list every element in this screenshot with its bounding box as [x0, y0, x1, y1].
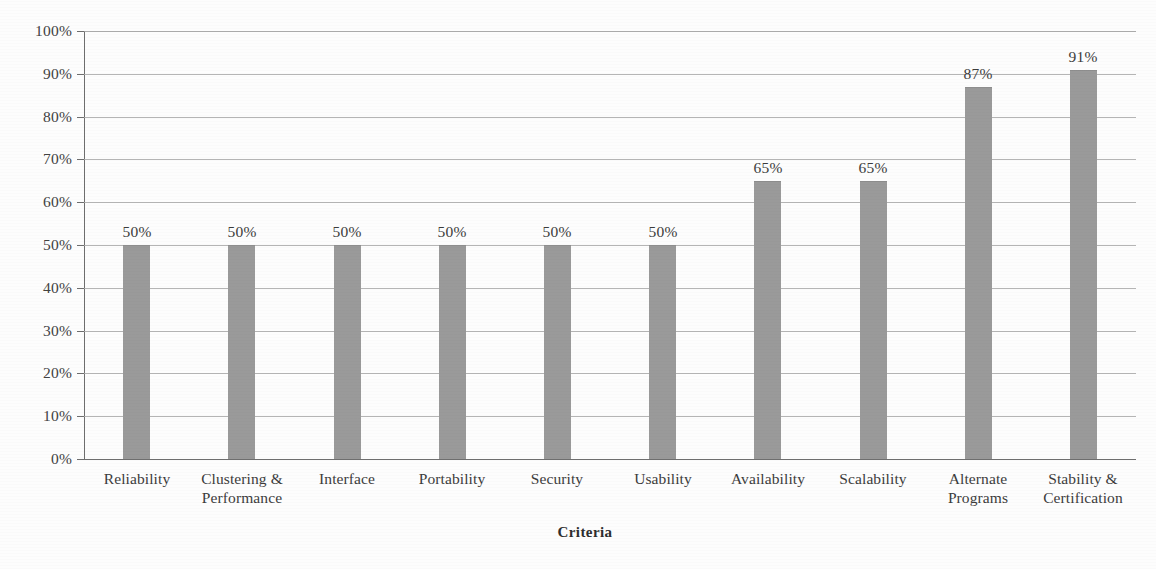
x-axis-category-label: Availability — [712, 469, 824, 488]
bar — [228, 245, 255, 459]
x-axis-category-label: Scalability — [817, 469, 929, 488]
y-axis-label: 0% — [12, 451, 72, 467]
x-axis-category-label: Reliability — [81, 469, 193, 488]
x-axis-category-label: AlternatePrograms — [922, 469, 1034, 507]
bar-value-label: 50% — [312, 224, 382, 240]
bar — [544, 245, 571, 459]
y-axis-tick-60 — [77, 202, 84, 203]
bar — [439, 245, 466, 459]
y-axis-tick-80 — [77, 117, 84, 118]
y-axis-label: 50% — [12, 237, 72, 253]
y-axis-label: 40% — [12, 280, 72, 296]
x-axis-category-label: Interface — [291, 469, 403, 488]
x-axis-category-label: Security — [501, 469, 613, 488]
y-axis-tick-40 — [77, 288, 84, 289]
bar — [334, 245, 361, 459]
bar-value-label: 50% — [628, 224, 698, 240]
x-axis-label-line: Alternate — [922, 469, 1034, 488]
y-axis-tick-100 — [77, 31, 84, 32]
x-axis-label-line: Performance — [186, 488, 298, 507]
bar-value-label: 65% — [733, 160, 803, 176]
bar — [1070, 70, 1097, 459]
x-axis-category-label: Stability &Certification — [1027, 469, 1139, 507]
y-axis-label: 60% — [12, 194, 72, 210]
bar-value-label: 50% — [207, 224, 277, 240]
x-axis-label-line: Clustering & — [186, 469, 298, 488]
y-axis-label: 80% — [12, 109, 72, 125]
gridline-0 — [84, 459, 1136, 460]
x-axis-label-line: Portability — [396, 469, 508, 488]
bar-value-label: 50% — [417, 224, 487, 240]
x-axis-category-label: Usability — [607, 469, 719, 488]
bar-value-label: 50% — [102, 224, 172, 240]
x-axis-label-line: Availability — [712, 469, 824, 488]
x-axis-label-line: Security — [501, 469, 613, 488]
x-axis-label-line: Scalability — [817, 469, 929, 488]
bar-chart: 100%90%80%70%60%50%40%30%20%10%0% 50%50%… — [0, 0, 1156, 569]
x-axis-category-label: Clustering &Performance — [186, 469, 298, 507]
y-axis-tick-70 — [77, 159, 84, 160]
x-axis-label-line: Programs — [922, 488, 1034, 507]
x-axis-title-text: Criteria — [558, 524, 613, 540]
bar — [754, 181, 781, 459]
bar — [649, 245, 676, 459]
y-axis-tick-90 — [77, 74, 84, 75]
y-axis-label: 10% — [12, 408, 72, 424]
bar-value-label: 87% — [943, 66, 1013, 82]
x-axis-label-line: Certification — [1027, 488, 1139, 507]
bar — [965, 87, 992, 459]
x-axis-label-line: Reliability — [81, 469, 193, 488]
x-axis-label-line: Usability — [607, 469, 719, 488]
plot-area — [84, 31, 1136, 459]
bar-value-label: 65% — [838, 160, 908, 176]
y-axis-tick-20 — [77, 373, 84, 374]
y-axis-tick-30 — [77, 331, 84, 332]
y-axis-tick-10 — [77, 416, 84, 417]
y-axis-label: 30% — [12, 323, 72, 339]
x-axis-label-line: Interface — [291, 469, 403, 488]
y-axis-label: 70% — [12, 151, 72, 167]
y-axis-label: 20% — [12, 365, 72, 381]
bar-value-label: 91% — [1048, 49, 1118, 65]
x-axis-title: Criteria — [0, 524, 1156, 541]
y-axis-label: 100% — [12, 23, 72, 39]
x-axis-category-label: Portability — [396, 469, 508, 488]
y-axis-tick-50 — [77, 245, 84, 246]
bar-value-label: 50% — [522, 224, 592, 240]
bar — [123, 245, 150, 459]
y-axis-label: 90% — [12, 66, 72, 82]
x-axis-label-line: Stability & — [1027, 469, 1139, 488]
y-axis-tick-0 — [77, 459, 84, 460]
bar — [860, 181, 887, 459]
